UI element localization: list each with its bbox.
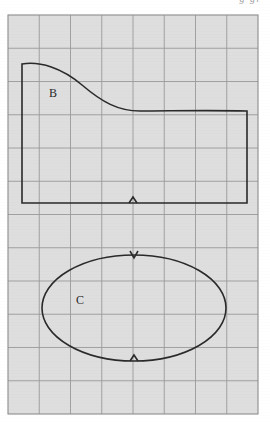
figure-page: g gr (0, 0, 270, 422)
figure-svg: B C (0, 13, 270, 418)
figure-area: B C (0, 13, 270, 418)
clipped-header-text: g gr (0, 0, 270, 5)
region-b-label: B (49, 86, 57, 100)
region-c-label: C (76, 293, 84, 307)
